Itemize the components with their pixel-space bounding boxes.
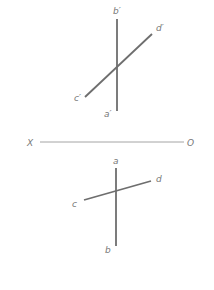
label-d-prime: d′ xyxy=(156,23,164,33)
label-o: O xyxy=(187,138,194,148)
front-line-cd xyxy=(85,34,152,97)
label-a-prime: a′ xyxy=(104,109,112,119)
label-c: c xyxy=(72,199,77,209)
label-a: a xyxy=(113,156,119,166)
label-d: d xyxy=(156,174,162,184)
label-x: X xyxy=(26,138,34,148)
top-line-cd xyxy=(84,181,151,200)
label-c-prime: c′ xyxy=(74,93,81,103)
projection-diagram: b′ a′ c′ d′ X O a b c d xyxy=(0,0,214,290)
label-b-prime: b′ xyxy=(113,6,121,16)
label-b: b xyxy=(105,245,111,255)
